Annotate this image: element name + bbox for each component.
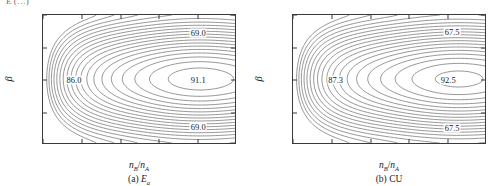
y-tick-mark-b-3-right [481,112,485,113]
y-axis-label-a: β [3,76,14,81]
contour-level-72.3 [63,25,235,132]
contour-level-70.75 [60,22,235,136]
plot-area-b: π/2π/40−π/4−π/21.01.21.41.61.82.067.587.… [292,14,486,144]
x-tick-label-b-1: 1.2 [326,143,337,144]
contour-value-label-a-0: 69.0 [190,29,207,38]
x-tick-mark-b-2-top [370,15,371,19]
x-tick-label-a-1: 1.2 [76,143,87,144]
plot-area-a: π/2π/40−π/4−π/21.01.21.41.61.82.069.086.… [42,14,236,144]
contour-value-label-a-1: 86.0 [66,76,83,85]
x-tick-mark-a-3-top [159,15,160,19]
x-tick-mark-a-0-bottom [43,139,44,143]
x-tick-mark-b-4-top [448,15,449,19]
x-tick-mark-a-1-top [81,15,82,19]
y-tick-mark-b-2-right [481,80,485,81]
y-tick-mark-b-0-right [481,15,485,16]
x-tick-mark-b-1-top [331,15,332,19]
contour-level-86.25 [122,53,235,105]
x-tick-mark-a-3-bottom [159,139,160,143]
x-tick-label-b-3: 1.6 [404,143,415,144]
x-tick-label-b-5: 2.0 [482,143,486,144]
x-axis-label-b: nB/nA [379,160,399,172]
y-tick-mark-a-3-left [43,112,47,113]
y-tick-mark-a-1-right [231,47,235,48]
x-tick-mark-a-2-bottom [120,139,121,143]
contour-level-85.8 [368,50,485,107]
x-tick-mark-a-2-top [120,15,121,19]
x-tick-mark-b-3-bottom [409,139,410,143]
x-tick-mark-a-4-top [198,15,199,19]
contour-value-label-b-2: 92.5 [440,76,457,85]
contour-level-87.8 [135,57,235,101]
x-tick-mark-a-1-bottom [81,139,82,143]
y-tick-mark-a-2-right [231,80,235,81]
x-tick-label-a-3: 1.6 [154,143,165,144]
x-axis-label-a: nB/nA [129,160,149,172]
y-tick-mark-a-0-left [43,15,47,16]
y-tick-mark-a-2-left [43,80,47,81]
contour-level-80.05 [87,40,235,118]
contour-level-79 [333,38,485,121]
contour-level-69.2 [57,19,235,140]
contour-level-76.95 [76,34,235,124]
panel-b: π/2π/40−π/4−π/21.01.21.41.61.82.067.587.… [250,0,500,186]
panel-a: π/2π/40−π/4−π/21.01.21.41.61.82.069.086.… [0,0,250,186]
contour-level-87.5 [381,54,485,104]
panel-caption-a: (a) Ea [128,174,150,186]
x-axis-denominator-sub-b: A [395,165,399,172]
y-tick-mark-b-2-left [293,80,297,81]
x-tick-mark-b-3-top [409,15,410,19]
x-tick-label-a-0: 1.0 [42,143,48,144]
y-tick-mark-b-1-left [293,47,297,48]
y-tick-mark-a-0-right [231,15,235,16]
contour-level-73.85 [67,28,235,129]
x-tick-mark-b-0-bottom [293,139,294,143]
contour-value-label-a-3: 69.0 [190,122,207,131]
y-tick-mark-a-3-right [231,112,235,113]
y-axis-label-b: β [253,76,264,81]
panel-caption-prefix-b: (b) [376,174,387,184]
contour-level-84.1 [357,47,485,111]
panel-caption-prefix-a: (a) [128,174,139,184]
panel-caption-symbol-b: CU [389,174,402,184]
contour-level-77.3 [327,35,485,123]
y-tick-mark-a-1-left [43,47,47,48]
contour-value-label-b-1: 87.3 [327,76,344,85]
x-tick-mark-b-1-bottom [331,139,332,143]
x-tick-mark-a-0-top [43,15,44,19]
x-tick-label-b-2: 1.4 [365,143,376,144]
contour-level-66.1 [51,15,137,143]
contour-value-label-b-0: 67.5 [444,27,461,36]
x-tick-label-a-4: 1.8 [193,143,204,144]
contour-value-label-a-2: 91.1 [190,76,207,85]
contour-level-75.6 [322,32,485,126]
contour-level-75.4 [71,31,235,127]
contour-value-label-b-3: 67.5 [444,124,461,133]
figure-contour-pair: E (…) π/2π/40−π/4−π/21.01.21.41.61.82.06… [0,0,500,186]
panel-caption-symbol-sub-a: a [147,179,150,186]
panel-caption-b: (b) CU [376,174,403,184]
x-axis-denominator-sub-a: A [145,165,149,172]
contour-level-65.4 [301,15,397,143]
contour-level-81.6 [94,43,235,115]
x-tick-mark-a-4-bottom [198,139,199,143]
x-tick-label-b-4: 1.8 [443,143,454,144]
x-tick-mark-b-4-bottom [448,139,449,143]
x-tick-label-a-2: 1.4 [115,143,126,144]
y-tick-mark-b-0-left [293,15,297,16]
y-tick-mark-b-3-left [293,112,297,113]
x-tick-label-b-0: 1.0 [292,143,298,144]
x-tick-mark-b-2-bottom [370,139,371,143]
y-tick-mark-b-1-right [481,47,485,48]
x-tick-label-a-5: 2.0 [232,143,236,144]
x-tick-mark-b-0-top [293,15,294,19]
contour-level-84.7 [111,49,235,108]
